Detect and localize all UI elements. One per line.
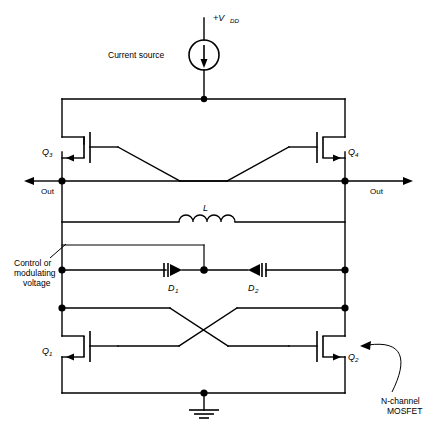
transistor-q3 — [62, 132, 118, 181]
lower-cross-coupling — [58, 304, 348, 346]
transistor-q2 — [289, 308, 345, 393]
q3-source-arrow — [66, 155, 74, 162]
diode-d2-subscript: 2 — [254, 287, 259, 294]
cross-lower-left-diagonal — [170, 308, 228, 346]
control-voltage-branch — [50, 244, 204, 274]
upper-cross-coupling — [62, 147, 345, 181]
transistor-q1-label: Q — [42, 346, 49, 356]
output-left-label: Out — [41, 187, 55, 196]
diode-d1-anode-icon — [170, 264, 182, 276]
mosfet-annotation-line2: MOSFET — [387, 406, 422, 416]
transistor-q2-label: Q — [348, 352, 355, 362]
control-voltage-label-line3: voltage — [23, 278, 51, 288]
transistor-q2-subscript: 2 — [354, 356, 359, 363]
control-voltage-leader — [50, 244, 66, 258]
output-right-label: Out — [370, 187, 384, 196]
diode-d1-subscript: 1 — [175, 287, 178, 294]
control-voltage-label-line1: Control or — [14, 258, 51, 268]
transistor-q3-label: Q — [42, 147, 49, 157]
diode-d1-label: D — [168, 283, 175, 293]
q4-source-arrow — [333, 155, 341, 162]
mosfet-annotation — [360, 341, 401, 392]
cross-lower-right-diagonal — [179, 308, 237, 346]
supply-branch — [189, 18, 219, 102]
transistor-q4 — [289, 132, 345, 181]
inductor-branch — [62, 215, 345, 222]
output-left-arrow-icon — [24, 177, 34, 185]
cross-upper-right-to-left — [227, 147, 289, 181]
mosfet-annotation-leader — [368, 344, 401, 392]
cross-upper-left-to-right — [118, 147, 180, 181]
current-source-label: Current source — [108, 50, 164, 60]
varactor-branch — [62, 263, 349, 277]
inductor-label: L — [203, 203, 208, 213]
ground-branch — [62, 389, 345, 418]
junction-dot-varactor-right — [341, 266, 348, 273]
output-right — [341, 177, 413, 185]
diode-d2-anode-icon — [248, 264, 260, 276]
circuit-diagram: +V DD Current source Q 3 — [0, 0, 442, 437]
top-rail — [62, 99, 345, 137]
transistor-q4-label: Q — [348, 147, 355, 157]
inductor-coil-icon — [179, 215, 235, 222]
diode-d2-label: D — [248, 283, 255, 293]
control-voltage-label-line2: modulating — [14, 268, 56, 278]
output-left — [24, 177, 66, 185]
supply-label-subscript: DD — [230, 17, 239, 24]
transistor-q4-subscript: 4 — [355, 151, 359, 158]
current-source-arrow-head — [201, 59, 208, 68]
transistor-q3-subscript: 3 — [49, 151, 53, 158]
transistor-q1 — [62, 308, 118, 393]
transistor-q1-subscript: 1 — [49, 350, 52, 357]
mosfet-annotation-arrow-icon — [360, 341, 371, 350]
output-right-arrow-icon — [403, 177, 413, 185]
supply-label: +V — [213, 13, 225, 23]
q1-source-arrow — [66, 354, 74, 361]
mosfet-annotation-line1: N-channel — [381, 396, 420, 406]
schematic-svg: +V DD Current source Q 3 — [0, 0, 442, 437]
q2-source-arrow — [333, 354, 341, 361]
